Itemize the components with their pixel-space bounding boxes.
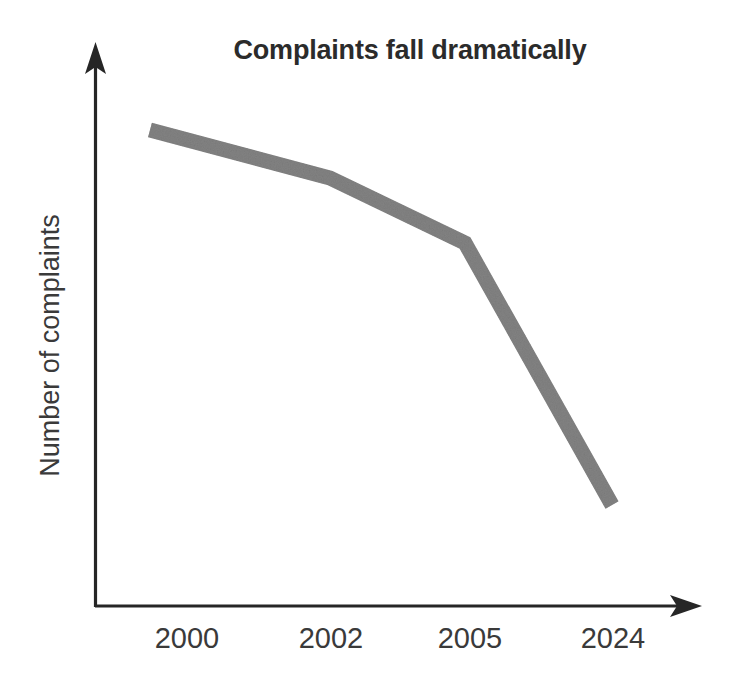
x-tick-label-2005: 2005: [410, 622, 530, 655]
x-tick-label-2002: 2002: [271, 622, 391, 655]
chart-figure: Complaints fall dramatically Number of c…: [0, 0, 736, 697]
page-title: Complaints fall dramatically: [120, 33, 700, 67]
axes-group: [85, 42, 702, 617]
chart-canvas: [0, 0, 736, 697]
x-tick-label-2000: 2000: [127, 622, 247, 655]
downward-trend-icon: [150, 130, 612, 505]
trend-line-shadow: [150, 130, 612, 505]
y-axis-label: Number of complaints: [35, 166, 66, 526]
data-series-group: [150, 130, 612, 505]
x-tick-label-2024: 2024: [553, 622, 673, 655]
